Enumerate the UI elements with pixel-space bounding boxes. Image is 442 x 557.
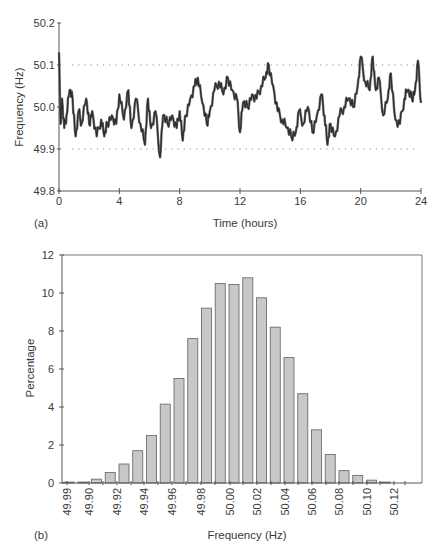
histogram-bar: [188, 339, 198, 483]
histogram-bar: [147, 436, 157, 484]
x-tick-label: 24: [415, 195, 427, 207]
histogram-bar: [229, 284, 239, 483]
histogram-bar: [174, 379, 184, 484]
histogram-bar: [92, 479, 102, 483]
x-axis-title: Frequency (Hz): [207, 529, 286, 541]
y-tick-label: 2: [48, 439, 54, 451]
panel-label-b: (b): [34, 529, 48, 541]
y-tick-label: 10: [42, 287, 54, 299]
y-tick-label: 50.0: [34, 101, 55, 113]
x-tick-label: 16: [294, 195, 306, 207]
y-tick-label: 50.1: [34, 59, 55, 71]
y-tick-label: 50.2: [34, 17, 55, 29]
x-tick-label: 50.10: [361, 488, 373, 516]
y-axis-title: Frequency (Hz): [13, 67, 25, 146]
time-series-chart: 49.849.950.050.150.204812162024 Frequenc…: [13, 17, 427, 229]
histogram-bars: [64, 278, 390, 483]
figure: 49.849.950.050.150.204812162024 Frequenc…: [0, 0, 442, 557]
y-tick-label: 4: [48, 401, 54, 413]
histogram-bar: [312, 430, 322, 483]
x-tick-label: 49.99: [61, 488, 73, 516]
histogram-bar: [325, 455, 335, 484]
x-tick-label: 50.12: [388, 488, 400, 516]
x-tick-label: 49.96: [166, 488, 178, 516]
histogram-bar: [298, 394, 308, 483]
histogram-bar: [284, 358, 294, 483]
x-axis-title: Time (hours): [213, 217, 278, 229]
histogram-bar: [243, 278, 253, 483]
x-tick-label: 12: [234, 195, 246, 207]
histogram-bar: [339, 471, 349, 483]
x-tick-label: 49.90: [83, 488, 95, 516]
frequency-trace: [59, 52, 421, 157]
panel-label-a: (a): [34, 217, 48, 229]
x-tick-label: 50.00: [224, 488, 236, 516]
y-axis-title: Percentage: [24, 339, 36, 398]
y-tick-label: 0: [48, 477, 54, 489]
x-tick-label: 0: [56, 195, 62, 207]
histogram-chart: 02468101249.9949.9049.9249.9449.9649.985…: [24, 249, 422, 541]
x-tick-label: 50.06: [306, 488, 318, 516]
frequency-line: [59, 52, 421, 157]
x-tick-label: 49.92: [111, 488, 123, 516]
x-tick-label: 49.94: [138, 488, 150, 516]
y-tick-label: 6: [48, 363, 54, 375]
x-tick-label: 50.02: [251, 488, 263, 516]
histogram-bar: [160, 404, 170, 483]
x-tick-label: 50.08: [333, 488, 345, 516]
histogram-bar: [257, 298, 267, 483]
x-tick-label: 8: [177, 195, 183, 207]
histogram-bar: [105, 473, 115, 483]
y-tick-label: 12: [42, 249, 54, 261]
x-tick-label: 49.98: [195, 488, 207, 516]
histogram-bar: [133, 451, 143, 483]
x-tick-label: 4: [116, 195, 122, 207]
y-tick-label: 49.9: [34, 143, 55, 155]
x-tick-label: 50.04: [279, 488, 291, 516]
histogram-bar: [353, 475, 363, 483]
y-tick-label: 8: [48, 325, 54, 337]
frequency-trace-shadow: [59, 52, 421, 157]
histogram-bar: [202, 308, 212, 483]
x-tick-label: 20: [355, 195, 367, 207]
y-tick-label: 49.8: [34, 185, 55, 197]
histogram-bar: [270, 327, 280, 483]
histogram-bar: [215, 284, 225, 484]
histogram-bar: [119, 464, 129, 483]
